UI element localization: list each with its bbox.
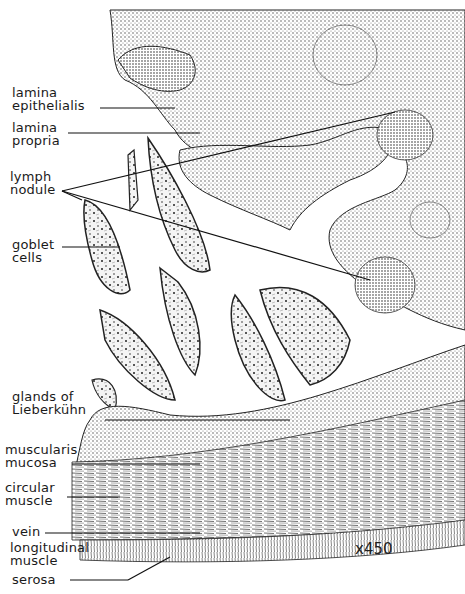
label-goblet-cells: goblet cells: [12, 238, 54, 264]
label-circular-muscle: circular muscle: [5, 481, 55, 507]
label-longitudinal-muscle: longitudinal muscle: [10, 541, 89, 567]
label-vein: vein: [12, 525, 40, 538]
magnification-label: x450: [355, 540, 393, 558]
lymph-nodule-2: [355, 257, 415, 313]
label-lymph-nodule: lymph nodule: [10, 170, 56, 196]
villus: [128, 150, 138, 210]
label-lamina-epithelialis: lamina epithelialis: [12, 86, 85, 112]
label-lamina-propria: lamina propria: [12, 121, 60, 147]
villus: [92, 379, 116, 410]
label-serosa: serosa: [12, 573, 56, 586]
histology-figure: lamina epithelialis lamina propria lymph…: [0, 0, 465, 594]
villus: [160, 268, 200, 375]
label-glands-of-lieberkuhn: glands of Lieberkühn: [12, 390, 86, 416]
lymph-nodule-1: [377, 110, 433, 160]
label-muscularis-mucosa: muscularis mucosa: [5, 443, 77, 469]
epithelial-fold: [118, 46, 195, 91]
